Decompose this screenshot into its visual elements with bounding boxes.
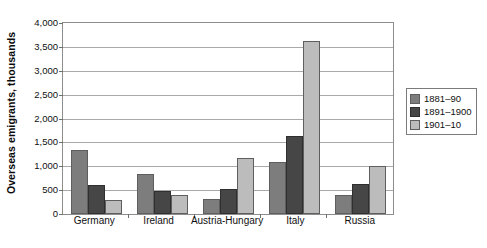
legend-item: 1891–1900 [410, 105, 472, 118]
y-axis-tick-label: 2,500 [20, 88, 58, 99]
y-axis-tick-label: 1,500 [20, 136, 58, 147]
bar [71, 150, 88, 214]
y-axis-tick-label: 2,000 [20, 112, 58, 123]
y-axis-tick-mark [59, 190, 63, 191]
bar-group-bars [261, 23, 327, 214]
bar-group-bars [129, 23, 195, 214]
x-axis-tick-labels: GermanyIrelandAustria-HungaryItalyRussia [62, 215, 392, 235]
y-axis-tick-labels: 05001,0001,5002,0002,5003,0003,5004,000 [20, 0, 58, 248]
y-axis-tick-label: 500 [20, 184, 58, 195]
y-axis-tick-mark [59, 166, 63, 167]
legend-color-swatch [410, 94, 420, 104]
y-axis-title: Overseas emigrants, thousands [5, 31, 17, 193]
x-axis-tick-label: Germany [62, 215, 126, 235]
y-axis-title-container: Overseas emigrants, thousands [0, 0, 22, 225]
x-axis-tick-label: Russia [328, 215, 392, 235]
legend-color-swatch [410, 107, 420, 117]
y-axis-tick-label: 4,000 [20, 17, 58, 28]
y-axis-tick-mark [59, 23, 63, 24]
legend: 1881–901891–19001901–10 [406, 88, 477, 135]
bar [303, 41, 320, 214]
bar [269, 162, 286, 214]
bar-group-bars [327, 23, 393, 214]
x-axis-tick-label: Austria-Hungary [191, 215, 263, 235]
legend-color-swatch [410, 120, 420, 130]
legend-item: 1881–90 [410, 92, 472, 105]
x-axis-tick-label: Italy [263, 215, 327, 235]
y-axis-tick-mark [59, 142, 63, 143]
bar [203, 199, 220, 214]
legend-item: 1901–10 [410, 118, 472, 131]
bar [220, 189, 237, 214]
y-axis-tick-label: 0 [20, 208, 58, 219]
x-axis-tick-label: Ireland [126, 215, 190, 235]
y-axis-tick-label: 3,000 [20, 64, 58, 75]
bar-group [63, 23, 129, 214]
bar [137, 174, 154, 214]
chart-screenshot: Overseas emigrants, thousands 05001,0001… [0, 0, 487, 248]
bar-group-bars [195, 23, 261, 214]
bar [335, 195, 352, 214]
y-axis-tick-mark [59, 95, 63, 96]
y-axis-tick-label: 1,000 [20, 160, 58, 171]
bar [88, 185, 105, 214]
y-axis-tick-mark [59, 47, 63, 48]
legend-item-label: 1901–10 [424, 119, 461, 130]
bar [237, 158, 254, 214]
legend-item-label: 1881–90 [424, 93, 461, 104]
bar-group [327, 23, 393, 214]
y-axis-tick-mark [59, 71, 63, 72]
bar-group-bars [63, 23, 129, 214]
bar [286, 136, 303, 214]
bar [105, 200, 122, 214]
bar [352, 184, 369, 214]
y-axis-tick-mark [59, 119, 63, 120]
bar-group [195, 23, 261, 214]
bar-groups [63, 23, 393, 214]
plot-area [62, 22, 394, 215]
bar [171, 195, 188, 214]
y-axis-tick-label: 3,500 [20, 40, 58, 51]
bar-group [129, 23, 195, 214]
bar [369, 166, 386, 214]
bar [154, 191, 171, 214]
bar-group [261, 23, 327, 214]
legend-item-label: 1891–1900 [424, 106, 472, 117]
